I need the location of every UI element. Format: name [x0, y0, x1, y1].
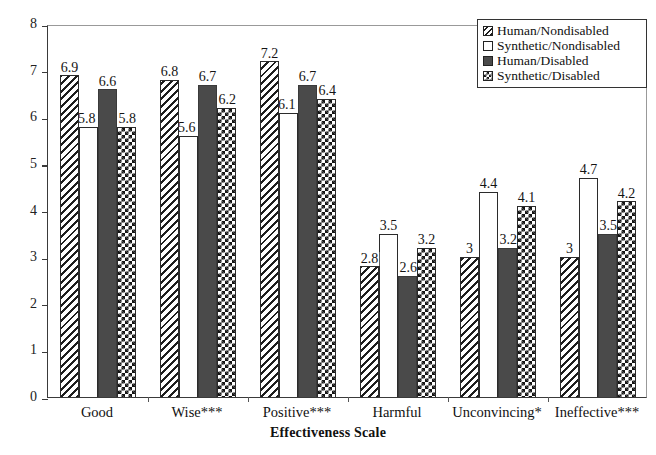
x-axis-title: Effectiveness Scale — [0, 425, 656, 441]
bar-Ineffective-Human-Disabled: 3.5 — [598, 234, 617, 397]
x-axis-group-divider — [448, 397, 449, 402]
bar-Good-Human-Nondisabled: 6.9 — [60, 75, 79, 397]
bar-Unconvincing-Human-Disabled: 3.2 — [498, 248, 517, 397]
bar-value-label: 5.8 — [77, 112, 97, 127]
bar-value-label: 6.2 — [218, 93, 238, 108]
y-tick-label: 6 — [7, 109, 37, 125]
y-tick-mark — [42, 212, 48, 213]
bar-Good-Human-Disabled: 6.6 — [98, 89, 117, 397]
bar-value-label: 7.2 — [260, 47, 280, 62]
legend-label: Synthetic/Disabled — [497, 69, 600, 83]
bar-Wise-Human-Disabled: 6.7 — [198, 85, 217, 397]
legend-item-human-disabled: Human/Disabled — [483, 54, 641, 68]
x-tick-label-Positive: Positive*** — [247, 404, 347, 421]
bar-value-label: 3 — [565, 242, 574, 257]
x-axis-group-divider — [148, 397, 149, 402]
bar-Positive-Synthetic-Disabled: 6.4 — [317, 99, 336, 397]
x-axis-group-divider — [348, 397, 349, 402]
y-tick-mark — [42, 305, 48, 306]
y-tick-mark — [42, 259, 48, 260]
bar-value-label: 6.8 — [160, 65, 180, 80]
bar-value-label: 4.2 — [617, 187, 637, 202]
bar-Ineffective-Synthetic-Disabled: 4.2 — [617, 201, 636, 397]
chart-legend: Human/NondisabledSynthetic/NondisabledHu… — [477, 19, 647, 88]
bar-Harmful-Human-Nondisabled: 2.8 — [360, 266, 379, 397]
bar-value-label: 6.6 — [98, 75, 118, 90]
y-tick-label: 7 — [7, 63, 37, 79]
bar-Positive-Human-Nondisabled: 7.2 — [260, 61, 279, 397]
x-tick-label-Wise: Wise*** — [147, 404, 247, 421]
bar-Harmful-Human-Disabled: 2.6 — [398, 276, 417, 397]
bar-value-label: 5.8 — [118, 112, 138, 127]
bar-value-label: 2.8 — [360, 252, 380, 267]
y-tick-mark — [42, 352, 48, 353]
y-tick-label: 8 — [7, 16, 37, 32]
x-tick-label-Good: Good — [47, 404, 147, 421]
legend-label: Human/Disabled — [497, 54, 588, 68]
bar-Ineffective-Human-Nondisabled: 3 — [560, 257, 579, 397]
x-tick-label-Harmful: Harmful — [347, 404, 447, 421]
bar-value-label: 6.7 — [198, 70, 218, 85]
bar-Wise-Synthetic-Disabled: 6.2 — [217, 108, 236, 397]
legend-swatch-icon — [483, 71, 493, 81]
legend-label: Synthetic/Nondisabled — [497, 39, 620, 53]
bar-value-label: 6.7 — [298, 70, 318, 85]
bar-value-label: 4.1 — [517, 191, 537, 206]
x-axis-group-divider — [248, 397, 249, 402]
bar-value-label: 3.5 — [379, 219, 399, 234]
y-tick-mark — [42, 399, 48, 400]
legend-item-human-nondisabled: Human/Nondisabled — [483, 24, 641, 38]
y-tick-label: 3 — [7, 249, 37, 265]
bar-Positive-Human-Disabled: 6.7 — [298, 85, 317, 397]
legend-label: Human/Nondisabled — [497, 24, 609, 38]
bar-Wise-Synthetic-Nondisabled: 5.6 — [179, 136, 198, 397]
legend-swatch-icon — [483, 56, 493, 66]
bar-value-label: 3.2 — [417, 233, 437, 248]
bar-value-label: 6.4 — [318, 84, 338, 99]
bar-Positive-Synthetic-Nondisabled: 6.1 — [279, 113, 298, 397]
x-axis-group-divider — [548, 397, 549, 402]
bar-Unconvincing-Human-Nondisabled: 3 — [460, 257, 479, 397]
y-tick-mark — [42, 26, 48, 27]
y-tick-label: 0 — [7, 389, 37, 405]
bar-value-label: 3 — [465, 242, 474, 257]
bar-Harmful-Synthetic-Nondisabled: 3.5 — [379, 234, 398, 397]
legend-item-synthetic-nondisabled: Synthetic/Nondisabled — [483, 39, 641, 53]
bar-Good-Synthetic-Disabled: 5.8 — [117, 127, 136, 397]
bar-Unconvincing-Synthetic-Disabled: 4.1 — [517, 206, 536, 397]
y-tick-label: 5 — [7, 156, 37, 172]
legend-swatch-icon — [483, 26, 493, 36]
bar-value-label: 3.2 — [499, 233, 519, 248]
y-tick-mark — [42, 72, 48, 73]
bar-value-label: 6.1 — [277, 98, 297, 113]
y-tick-label: 2 — [7, 296, 37, 312]
bar-chart-figure: Rating 012345678 6.95.86.65.86.85.66.76.… — [0, 0, 656, 455]
y-tick-label: 1 — [7, 342, 37, 358]
bar-value-label: 2.6 — [399, 261, 419, 276]
legend-item-synthetic-disabled: Synthetic/Disabled — [483, 69, 641, 83]
bar-value-label: 4.7 — [579, 163, 599, 178]
y-tick-mark — [42, 119, 48, 120]
bar-Ineffective-Synthetic-Nondisabled: 4.7 — [579, 178, 598, 397]
bar-Harmful-Synthetic-Disabled: 3.2 — [417, 248, 436, 397]
y-tick-mark — [42, 165, 48, 166]
y-tick-label: 4 — [7, 203, 37, 219]
bar-Unconvincing-Synthetic-Nondisabled: 4.4 — [479, 192, 498, 397]
legend-swatch-icon — [483, 41, 493, 51]
bar-value-label: 3.5 — [599, 219, 619, 234]
x-tick-label-Unconvincing: Unconvincing* — [447, 404, 547, 421]
bar-Good-Synthetic-Nondisabled: 5.8 — [79, 127, 98, 397]
bar-value-label: 5.6 — [177, 121, 197, 136]
bar-value-label: 6.9 — [60, 61, 80, 76]
bar-Wise-Human-Nondisabled: 6.8 — [160, 80, 179, 397]
bar-value-label: 4.4 — [479, 177, 499, 192]
x-tick-label-Ineffective: Ineffective*** — [547, 404, 647, 421]
